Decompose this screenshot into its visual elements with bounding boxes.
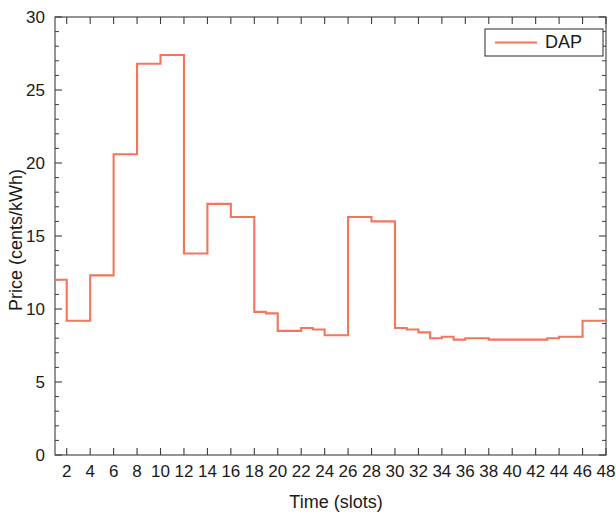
x-tick-label: 34 [432,462,451,481]
y-tick-label: 5 [36,373,45,392]
chart-figure: 051015202530 246810121416182022242628303… [0,0,616,516]
y-axis-title: Price (cents/kWh) [6,169,26,311]
x-tick-label: 32 [409,462,428,481]
x-tick-label: 2 [62,462,71,481]
chart-legend: DAP [485,29,603,56]
x-tick-label: 20 [268,462,287,481]
x-tick-label: 18 [245,462,264,481]
y-tick-label: 0 [36,446,45,465]
x-tick-label: 30 [386,462,405,481]
y-tick-label: 30 [26,8,45,27]
x-tick-label: 22 [292,462,311,481]
x-tick-label: 6 [109,462,118,481]
x-tick-label: 24 [315,462,334,481]
y-tick-label: 15 [26,227,45,246]
x-tick-label: 10 [151,462,170,481]
y-tick-label: 25 [26,81,45,100]
x-tick-label: 48 [597,462,616,481]
x-tick-label: 14 [198,462,217,481]
x-tick-label: 26 [339,462,358,481]
series-dap-line [55,55,606,340]
x-tick-label: 4 [85,462,94,481]
y-tick-label: 20 [26,154,45,173]
y-axis-tick-labels: 051015202530 [26,8,45,465]
x-tick-label: 16 [221,462,240,481]
x-tick-label: 12 [174,462,193,481]
x-tick-label: 44 [550,462,569,481]
price-stairs-chart: 051015202530 246810121416182022242628303… [0,0,616,516]
x-tick-label: 38 [479,462,498,481]
legend-label-dap: DAP [545,32,582,52]
x-axis-title: Time (slots) [289,492,382,512]
x-tick-label: 8 [132,462,141,481]
y-tick-label: 10 [26,300,45,319]
x-tick-label: 42 [526,462,545,481]
series-path-dap [55,55,606,340]
x-tick-label: 40 [503,462,522,481]
x-tick-label: 28 [362,462,381,481]
x-axis-tick-labels: 2468101214161820222426283032343638404244… [62,462,615,481]
x-tick-label: 36 [456,462,475,481]
x-tick-label: 46 [573,462,592,481]
